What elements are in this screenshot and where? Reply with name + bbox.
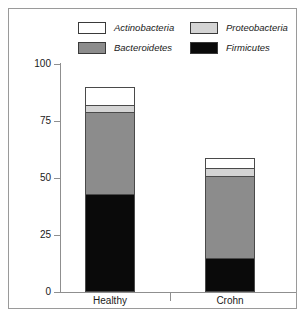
y-tick-mark-25 <box>54 235 60 236</box>
figure-stacked-bar-chart: Actinobacteria Proteobacteria Bacteroide… <box>0 0 306 318</box>
y-tick-0: 0 <box>0 292 60 293</box>
y-tick-mark-100 <box>54 64 60 65</box>
y-tick-25: 25 <box>0 235 60 236</box>
bar-segment-crohn-firmicutes <box>206 259 254 291</box>
x-axis-line <box>60 292 296 293</box>
y-tick-label-25: 25 <box>0 230 51 240</box>
y-tick-label-75: 75 <box>0 116 51 126</box>
bar-crohn <box>205 158 255 292</box>
y-tick-mark-75 <box>54 121 60 122</box>
y-tick-mark-50 <box>54 178 60 179</box>
bar-segment-healthy-firmicutes <box>86 195 134 291</box>
y-tick-mark-0 <box>54 292 60 293</box>
x-axis-label-healthy: Healthy <box>55 296 165 306</box>
bar-segment-crohn-actinobacteria <box>206 159 254 169</box>
x-axis-label-crohn: Crohn <box>175 296 285 306</box>
y-tick-label-50: 50 <box>0 173 51 183</box>
bar-segment-crohn-proteobacteria <box>206 169 254 177</box>
y-tick-75: 75 <box>0 121 60 122</box>
y-tick-label-0: 0 <box>0 287 51 297</box>
x-axis-group-divider <box>170 292 171 301</box>
bar-segment-crohn-bacteroidetes <box>206 177 254 259</box>
bar-healthy <box>85 87 135 292</box>
plot-area: 100 75 50 25 0 <box>0 0 306 318</box>
y-axis-line <box>60 63 61 293</box>
bar-segment-healthy-proteobacteria <box>86 106 134 113</box>
bar-segment-healthy-actinobacteria <box>86 88 134 106</box>
y-tick-100: 100 <box>0 64 60 65</box>
y-tick-50: 50 <box>0 178 60 179</box>
y-tick-label-100: 100 <box>0 59 51 69</box>
bar-segment-healthy-bacteroidetes <box>86 113 134 195</box>
